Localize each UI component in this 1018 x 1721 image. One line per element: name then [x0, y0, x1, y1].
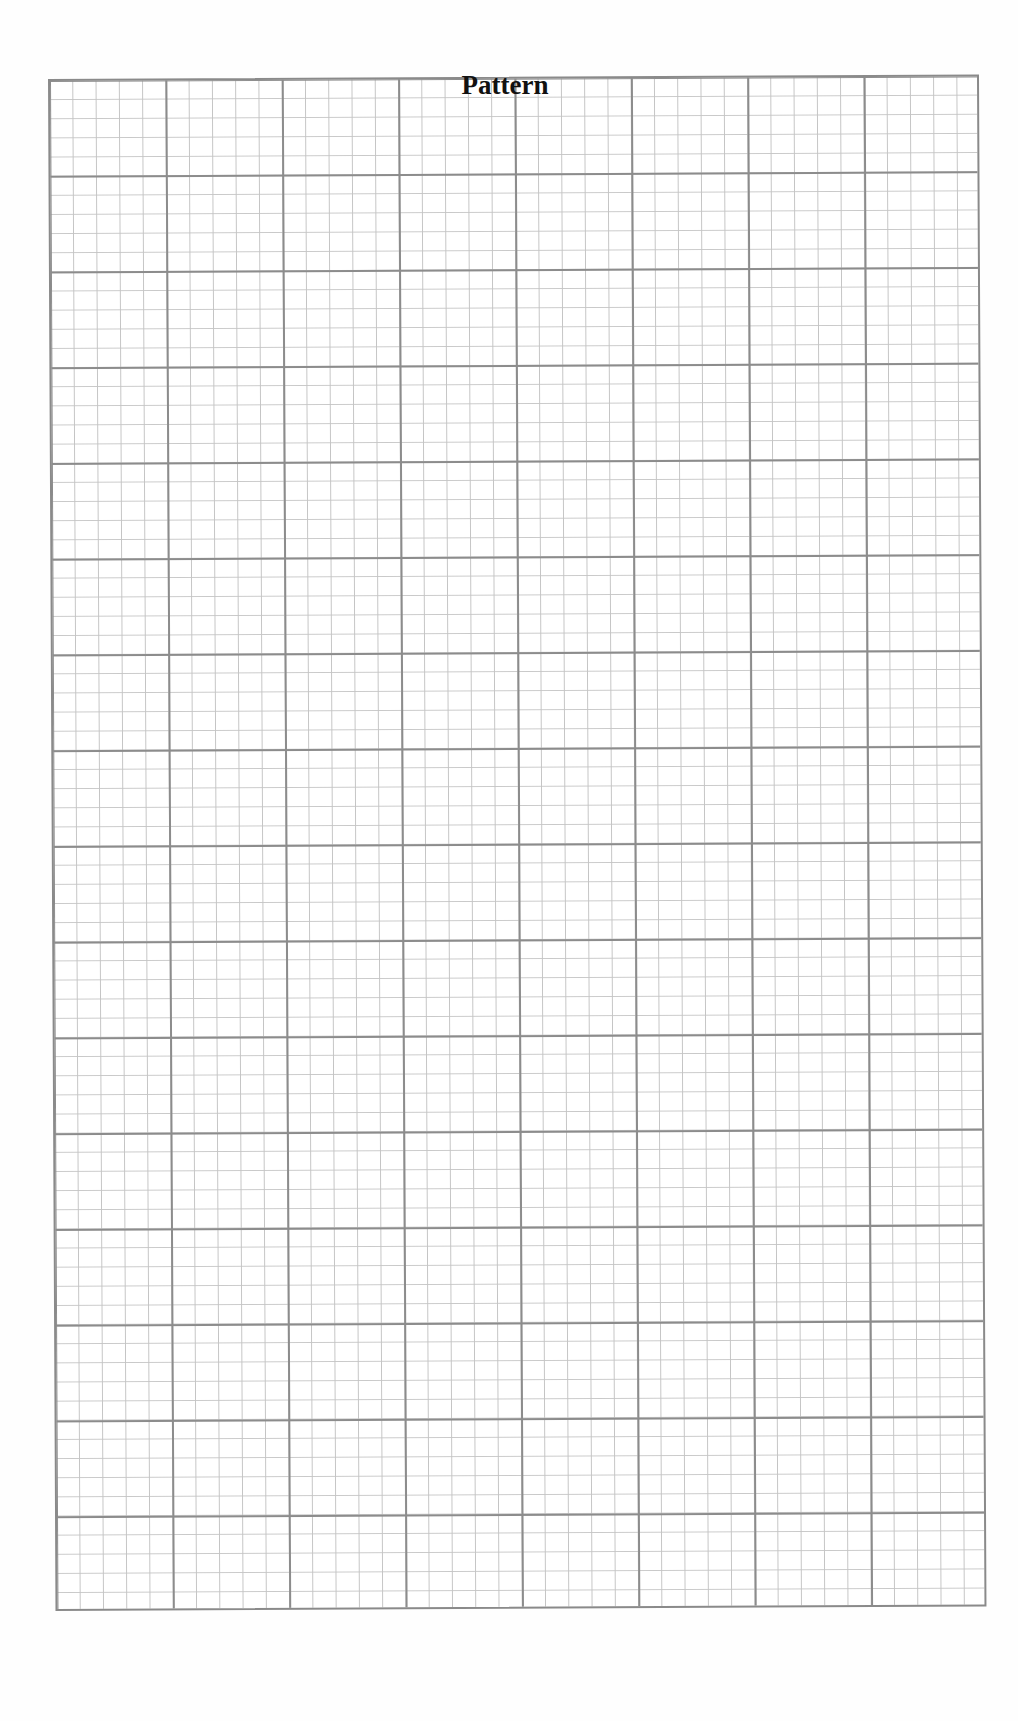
- graph-paper-page: Pattern: [0, 0, 1018, 1721]
- pattern-grid: [48, 74, 986, 1611]
